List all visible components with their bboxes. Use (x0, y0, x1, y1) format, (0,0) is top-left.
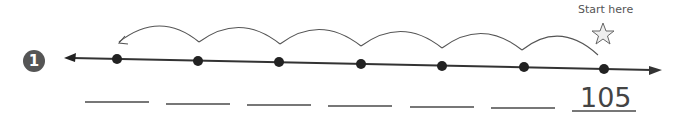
arrow-left-icon (64, 53, 76, 62)
start-value: 105 (580, 84, 632, 111)
answer-blank-1[interactable] (85, 101, 149, 103)
arrow-right-icon (649, 66, 662, 75)
answer-blank-2[interactable] (166, 103, 230, 105)
number-line (0, 0, 676, 115)
answer-blank-start (572, 110, 636, 112)
number-line-points (112, 54, 609, 74)
answer-blank-4[interactable] (328, 105, 392, 107)
answer-blank-6[interactable] (491, 107, 555, 109)
star-icon (592, 23, 614, 44)
hop-arcs (119, 26, 598, 55)
answer-blank-5[interactable] (410, 106, 474, 108)
answer-blank-3[interactable] (247, 104, 311, 106)
